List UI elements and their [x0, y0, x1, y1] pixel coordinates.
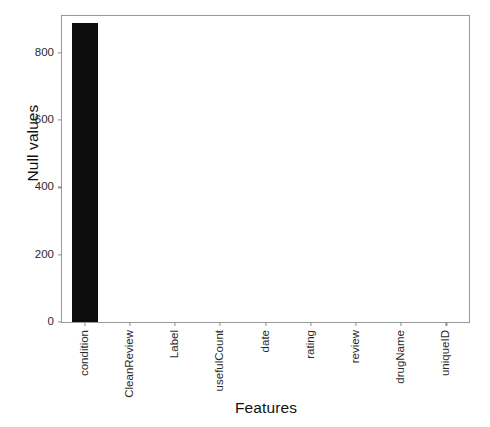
x-axis-title: Features — [61, 399, 471, 417]
x-tick-mark — [174, 322, 175, 326]
x-tick-label-date: date — [260, 330, 272, 352]
y-axis-title: Null values — [24, 58, 42, 228]
y-tick-label: 400 — [35, 182, 62, 194]
x-tick-label-rating: rating — [305, 330, 317, 359]
y-tick-label: 600 — [35, 114, 62, 126]
x-tick-mark — [446, 322, 447, 326]
x-tick-label-drugname: drugName — [395, 330, 407, 384]
x-tick-mark — [220, 322, 221, 326]
x-tick-label-label: Label — [169, 330, 181, 358]
bar-condition — [72, 23, 98, 322]
x-tick-mark — [401, 322, 402, 326]
x-tick-mark — [310, 322, 311, 326]
x-tick-mark — [84, 322, 85, 326]
plot-area: 0200400600800conditionCleanReviewLabelus… — [61, 15, 470, 323]
x-tick-label-usefulcount: usefulCount — [215, 330, 227, 391]
x-tick-mark — [355, 322, 356, 326]
x-tick-mark — [129, 322, 130, 326]
y-tick-label: 800 — [35, 47, 62, 59]
x-tick-label-condition: condition — [79, 330, 91, 376]
x-tick-mark — [265, 322, 266, 326]
y-tick-label: 0 — [48, 316, 62, 328]
x-tick-label-cleanreview: CleanReview — [124, 330, 136, 398]
y-tick-label: 200 — [35, 249, 62, 261]
x-tick-label-uniqueid: uniqueID — [441, 330, 453, 376]
x-tick-label-review: review — [350, 330, 362, 363]
bar-chart-figure: Null values 0200400600800conditionCleanR… — [0, 0, 490, 427]
